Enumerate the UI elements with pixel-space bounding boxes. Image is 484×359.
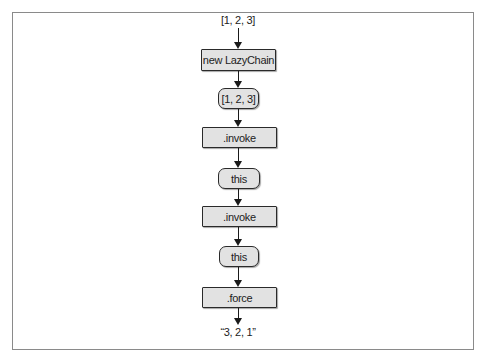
edge-n3-to-n4	[238, 148, 239, 161]
arrowhead-icon	[234, 280, 242, 287]
arrowhead-icon	[234, 199, 242, 206]
node-invoke-1: .invoke	[202, 127, 277, 148]
node-new-lazychain: new LazyChain	[201, 49, 276, 71]
input-label: [1, 2, 3]	[188, 14, 288, 26]
arrowhead-icon	[234, 239, 242, 246]
arrowhead-icon	[234, 120, 242, 127]
arrowhead-icon	[234, 81, 242, 88]
edge-input-to-n1	[238, 28, 239, 42]
arrowhead-icon	[234, 161, 242, 168]
arrowhead-icon	[234, 318, 242, 325]
edge-n2-to-n3	[238, 109, 239, 120]
node-this-1: this	[218, 168, 260, 189]
node-invoke-2: .invoke	[202, 206, 277, 227]
edge-n6-to-n7	[238, 267, 239, 280]
edge-n4-to-n5	[238, 189, 239, 199]
output-label: “3, 2, 1”	[188, 326, 288, 338]
edge-n7-to-output	[238, 308, 239, 318]
edge-n1-to-n2	[238, 71, 239, 81]
arrowhead-icon	[234, 42, 242, 49]
node-array-value: [1, 2, 3]	[218, 88, 259, 109]
node-force: .force	[202, 287, 277, 308]
edge-n5-to-n6	[238, 227, 239, 239]
node-this-2: this	[219, 246, 259, 267]
